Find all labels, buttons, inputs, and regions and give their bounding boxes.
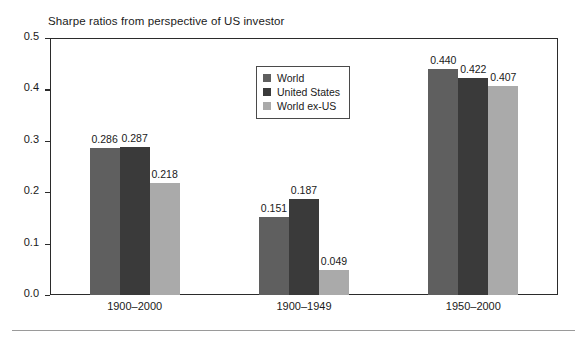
y-axis-tick-mark — [45, 295, 50, 296]
x-axis-labels: 1900–20001900–19491950–2000 — [50, 300, 558, 322]
x-axis-category-label: 1950–2000 — [446, 300, 501, 312]
legend-swatch-icon — [263, 88, 271, 96]
y-axis-tick-label: 0.3 — [24, 133, 39, 145]
bar[interactable] — [120, 147, 150, 295]
bar[interactable] — [90, 148, 120, 295]
legend-label: World — [277, 71, 304, 85]
bar-value-label: 0.440 — [430, 54, 456, 66]
bar-value-label: 0.422 — [460, 63, 486, 75]
bar-value-label: 0.218 — [152, 168, 178, 180]
y-axis-tick-label: 0.2 — [24, 184, 39, 196]
bar-column[interactable]: 0.287 — [120, 38, 150, 295]
chart-title: Sharpe ratios from perspective of US inv… — [48, 15, 285, 27]
x-axis-category-label: 1900–2000 — [107, 300, 162, 312]
legend-label: World ex-US — [277, 99, 336, 113]
bar[interactable] — [488, 86, 518, 295]
bar-column[interactable]: 0.422 — [458, 38, 488, 295]
y-axis: 0.00.10.20.30.40.5 — [0, 38, 50, 295]
bar-value-label: 0.187 — [291, 184, 317, 196]
y-axis-tick-label: 0.4 — [24, 81, 39, 93]
bar-value-label: 0.151 — [261, 202, 287, 214]
bar[interactable] — [428, 69, 458, 295]
legend-item: United States — [263, 85, 340, 99]
x-axis-category-label: 1900–1949 — [276, 300, 331, 312]
bar[interactable] — [319, 270, 349, 295]
legend-swatch-icon — [263, 102, 271, 110]
bar-column[interactable]: 0.407 — [488, 38, 518, 295]
bar-value-label: 0.049 — [321, 255, 347, 267]
bar[interactable] — [150, 183, 180, 295]
y-axis-tick-label: 0.0 — [24, 287, 39, 299]
bar-value-label: 0.287 — [122, 132, 148, 144]
bar-column[interactable]: 0.440 — [428, 38, 458, 295]
bottom-divider — [12, 330, 575, 331]
y-axis-tick-label: 0.5 — [24, 30, 39, 42]
bar[interactable] — [289, 199, 319, 295]
bar-column[interactable]: 0.286 — [90, 38, 120, 295]
chart-legend: WorldUnited StatesWorld ex-US — [256, 66, 350, 119]
legend-item: World ex-US — [263, 99, 340, 113]
bar-group: 0.2860.2870.218 — [90, 38, 180, 295]
chart-figure: Sharpe ratios from perspective of US inv… — [0, 0, 587, 343]
bar-group: 0.4400.4220.407 — [428, 38, 518, 295]
y-axis-tick-label: 0.1 — [24, 236, 39, 248]
bar[interactable] — [458, 78, 488, 295]
legend-swatch-icon — [263, 74, 271, 82]
bar-value-label: 0.286 — [92, 133, 118, 145]
legend-item: World — [263, 71, 340, 85]
legend-label: United States — [277, 85, 340, 99]
bar-value-label: 0.407 — [490, 71, 516, 83]
bar[interactable] — [259, 217, 289, 295]
bar-column[interactable]: 0.218 — [150, 38, 180, 295]
